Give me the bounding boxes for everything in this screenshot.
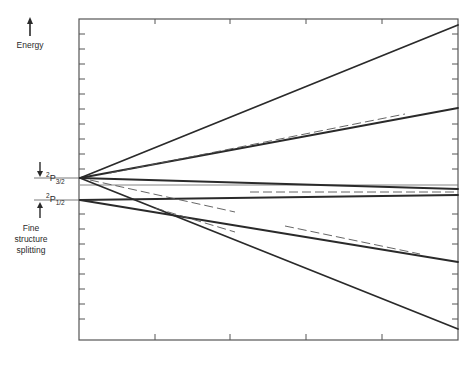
diagram-canvas	[0, 0, 475, 379]
arrow-down-icon	[37, 162, 43, 177]
energy-label: Energy	[10, 40, 50, 51]
p32-line-3	[80, 178, 458, 189]
dashed-3	[155, 208, 235, 232]
energy-arrow-icon	[27, 17, 33, 36]
p32-line-1	[80, 25, 458, 178]
fine-structure-label: Fine structure splitting	[8, 223, 54, 256]
bottom-ticks	[155, 334, 382, 340]
dashed-4	[285, 226, 420, 254]
p32-term-label: 2P3/2	[46, 171, 65, 185]
arrow-up-icon	[37, 202, 43, 218]
right-ticks	[452, 34, 458, 319]
p12-term-label: 2P1/2	[46, 192, 65, 206]
p12-line-1	[80, 195, 458, 200]
zeeman-solid-lines	[80, 25, 458, 329]
dashed-1	[110, 114, 405, 173]
top-ticks	[155, 19, 382, 24]
zeeman-diagram: Energy 2P3/2 2P1/2 Fine structure splitt…	[0, 0, 475, 379]
